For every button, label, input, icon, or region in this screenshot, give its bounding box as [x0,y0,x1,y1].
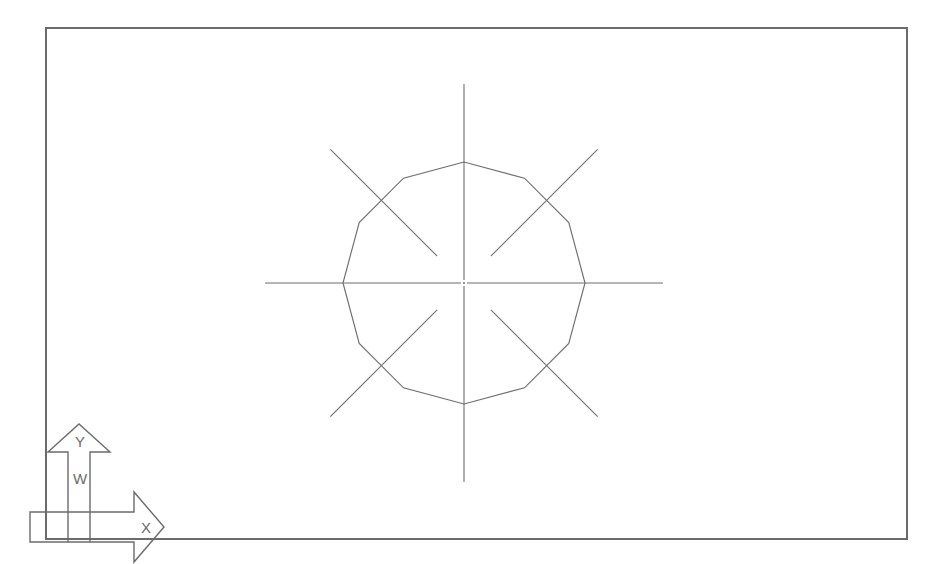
cad-application-window: Y W X [0,0,952,564]
construction-line-225deg[interactable] [330,310,437,417]
ucs-icon[interactable]: Y W X [30,424,164,562]
construction-line-135deg[interactable] [330,149,437,256]
construction-line-315deg[interactable] [491,310,598,417]
center-point-marker [463,282,465,284]
construction-line-45deg[interactable] [491,149,598,256]
ucs-world-label: W [73,470,88,487]
ucs-y-label: Y [75,433,85,450]
drawing-svg-root: Y W X [0,0,952,564]
ucs-origin-box-icon [30,512,68,542]
drawing-canvas[interactable]: Y W X [0,0,952,564]
ucs-x-label: X [141,519,151,536]
